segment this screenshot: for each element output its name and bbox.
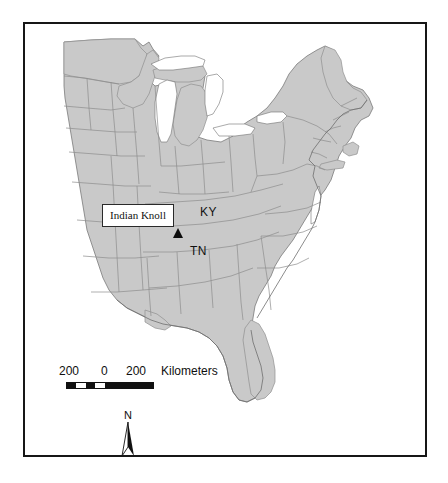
scale-bar-segment	[86, 383, 95, 388]
scale-bar: 200 0 200 Kilometers	[58, 364, 213, 389]
scale-bar-segment	[95, 383, 104, 388]
site-label-callout: Indian Knoll	[102, 204, 174, 227]
map-figure: Indian Knoll KY TN 200 0 200 Kilometers	[0, 0, 448, 483]
scale-bar-segment	[76, 383, 85, 388]
triangle-marker-icon	[173, 228, 183, 238]
scale-tick-right: 200	[126, 364, 146, 378]
scale-tick-zero: 0	[101, 364, 108, 378]
lake-erie	[213, 124, 255, 136]
north-arrow-icon: N	[111, 410, 145, 457]
scale-bar-segment	[105, 383, 153, 388]
scale-units-label: Kilometers	[161, 364, 218, 378]
scale-bar-labels: 200 0 200 Kilometers	[58, 364, 213, 380]
lake-huron	[205, 74, 223, 116]
scale-bar-segment	[67, 383, 76, 388]
state-label-ky: KY	[200, 205, 217, 219]
map-frame: Indian Knoll KY TN 200 0 200 Kilometers	[23, 22, 427, 457]
north-arrow-label: N	[111, 410, 145, 421]
north-arrow-glyph	[120, 422, 136, 457]
scale-tick-left: 200	[59, 364, 79, 378]
site-label-text: Indian Knoll	[110, 210, 166, 221]
state-label-tn: TN	[190, 244, 207, 258]
map-graphic	[25, 24, 425, 455]
scale-bar-graphic	[66, 382, 154, 389]
